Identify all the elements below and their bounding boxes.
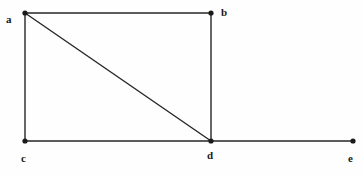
graph-vertex-d [208,138,213,143]
graph-diagram: abcde [0,0,362,176]
vertex-layer [22,10,355,143]
vertex-label-b: b [221,7,227,18]
vertex-label-e: e [348,153,353,164]
vertex-label-a: a [6,14,12,25]
vertex-label-d: d [207,150,213,161]
edge-layer [25,13,353,141]
graph-vertex-b [208,10,213,15]
graph-vertex-a [22,10,27,15]
graph-edge-ad [25,13,211,141]
graph-vertex-e [350,138,355,143]
graph-canvas [0,0,362,176]
graph-vertex-c [22,138,27,143]
vertex-label-c: c [21,153,26,164]
